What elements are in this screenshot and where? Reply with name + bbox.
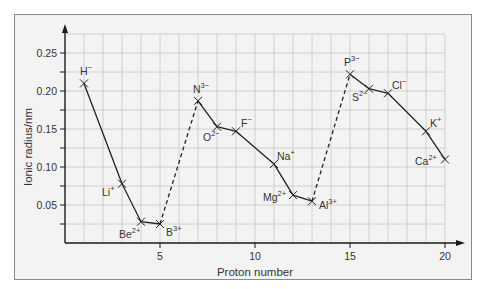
y-tick-label: 0.10 [37,161,58,173]
ion-label: F− [241,115,252,129]
x-axis-label: Proton number [217,266,293,278]
line-chart: 5101520 0.050.100.150.200.25 Proton numb… [0,0,479,289]
ion-label: H− [80,63,93,77]
x-ticks: 5101520 [157,243,451,262]
ion-label: Ca2+ [415,153,438,167]
ion-label: P3− [344,54,360,68]
ion-label: Al3+ [319,197,338,211]
y-axis-label: Ionic radius/nm [22,108,34,186]
ion-label: N3− [193,81,210,95]
ion-label: Cl− [392,77,407,91]
x-tick-label: 20 [439,250,451,262]
x-axis-arrow-icon [456,240,465,246]
axes [62,24,465,246]
solid-segment [198,101,217,127]
ion-label: B3+ [166,224,182,238]
ion-label: Mg2+ [263,189,287,203]
y-tick-label: 0.15 [37,123,58,135]
grid [65,34,445,243]
y-tick-label: 0.05 [37,199,58,211]
y-tick-label: 0.25 [37,47,58,59]
ion-label: S2− [352,89,368,103]
ion-label: O2− [203,129,220,143]
x-tick-label: 5 [157,250,163,262]
ion-label: K+ [430,115,442,129]
x-tick-label: 10 [249,250,261,262]
y-axis-arrow-icon [62,24,68,33]
data-markers [80,70,449,228]
solid-segment [122,184,141,222]
ion-label: Li+ [102,184,115,198]
ion-label: Be2+ [119,226,141,240]
x-tick-label: 15 [344,250,356,262]
y-tick-label: 0.20 [37,85,58,97]
y-ticks: 0.050.100.150.200.25 [37,47,65,224]
